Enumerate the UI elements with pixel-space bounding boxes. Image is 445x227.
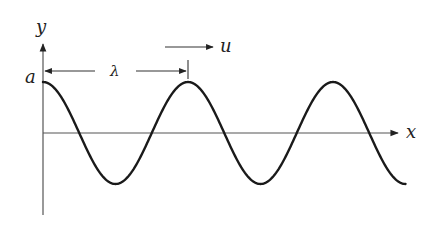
y-axis-label: y <box>35 16 47 37</box>
velocity-label: u <box>220 35 232 56</box>
x-axis-label: x <box>406 121 416 142</box>
wavelength-label: λ <box>109 62 120 80</box>
amplitude-label: a <box>25 66 36 87</box>
wave-diagram: y x a λ u <box>0 0 445 227</box>
